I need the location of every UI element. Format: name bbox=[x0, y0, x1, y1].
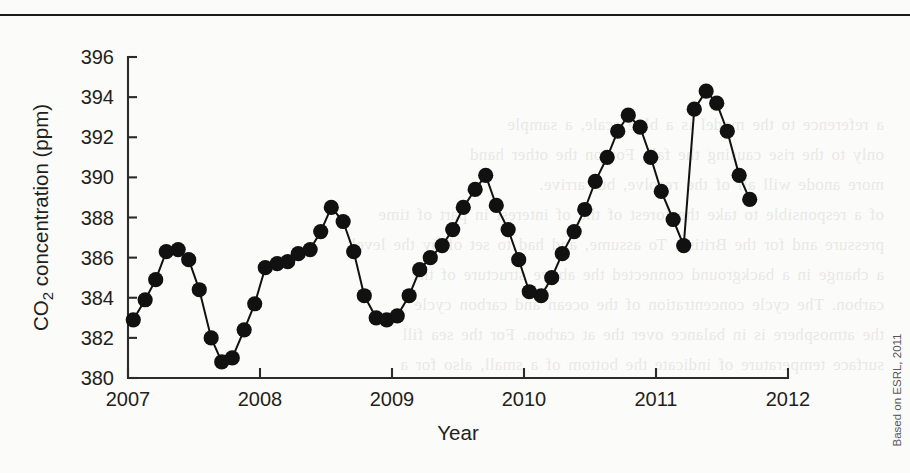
data-point bbox=[435, 238, 450, 253]
data-point bbox=[357, 288, 372, 303]
data-point bbox=[544, 270, 559, 285]
data-point bbox=[511, 252, 526, 267]
data-point bbox=[720, 124, 735, 139]
y-axis-title: CO2 concentration (ppm) bbox=[29, 104, 56, 331]
data-point bbox=[567, 224, 582, 239]
y-tick-label: 390 bbox=[81, 166, 114, 188]
data-point bbox=[148, 272, 163, 287]
data-point bbox=[676, 238, 691, 253]
data-series-markers bbox=[126, 84, 758, 370]
data-point bbox=[643, 150, 658, 165]
data-point bbox=[699, 84, 714, 99]
y-tick-label: 388 bbox=[81, 207, 114, 229]
data-point bbox=[336, 214, 351, 229]
x-tick-label: 2012 bbox=[766, 388, 811, 410]
data-point bbox=[346, 244, 361, 259]
x-tick-label: 2010 bbox=[502, 388, 547, 410]
data-point bbox=[423, 250, 438, 265]
x-tick-label: 2009 bbox=[370, 388, 415, 410]
data-point bbox=[489, 198, 504, 213]
chart-svg: 380382384386388390392394396 200720082009… bbox=[0, 14, 910, 473]
series-polyline bbox=[133, 91, 749, 362]
data-point bbox=[687, 102, 702, 117]
y-tick-labels: 380382384386388390392394396 bbox=[81, 46, 114, 389]
data-point bbox=[501, 222, 516, 237]
data-point bbox=[588, 174, 603, 189]
y-tick-label: 380 bbox=[81, 367, 114, 389]
data-point bbox=[225, 350, 240, 365]
y-tick-label: 382 bbox=[81, 327, 114, 349]
source-credit: Based on ESRL, 2011 bbox=[886, 315, 908, 465]
data-point bbox=[237, 322, 252, 337]
data-point bbox=[247, 296, 262, 311]
data-point bbox=[732, 168, 747, 183]
data-point bbox=[709, 96, 724, 111]
data-point bbox=[633, 120, 648, 135]
data-point bbox=[610, 124, 625, 139]
data-point bbox=[412, 262, 427, 277]
y-tick-label: 386 bbox=[81, 247, 114, 269]
data-point bbox=[204, 330, 219, 345]
data-point bbox=[138, 292, 153, 307]
data-point bbox=[478, 168, 493, 183]
y-tick-label: 396 bbox=[81, 46, 114, 68]
y-tick-label: 392 bbox=[81, 126, 114, 148]
y-tick-marks bbox=[128, 57, 137, 378]
data-point bbox=[445, 222, 460, 237]
x-axis-title: Year bbox=[437, 421, 479, 444]
data-point bbox=[600, 150, 615, 165]
data-point bbox=[468, 182, 483, 197]
y-tick-label: 384 bbox=[81, 287, 114, 309]
data-point bbox=[534, 288, 549, 303]
figure-page: a reference to the model is a blue scale… bbox=[0, 0, 910, 473]
x-tick-label: 2011 bbox=[634, 388, 677, 410]
source-credit-text: Based on ESRL, 2011 bbox=[891, 334, 903, 447]
data-point bbox=[126, 312, 141, 327]
x-tick-label: 2008 bbox=[238, 388, 283, 410]
data-point bbox=[402, 288, 417, 303]
x-tick-label: 2007 bbox=[106, 388, 151, 410]
data-point bbox=[390, 308, 405, 323]
data-point bbox=[577, 202, 592, 217]
y-tick-label: 394 bbox=[81, 86, 114, 108]
data-series-line bbox=[133, 91, 749, 362]
data-point bbox=[555, 246, 570, 261]
data-point bbox=[313, 224, 328, 239]
x-tick-labels: 200720082009201020112012 bbox=[106, 388, 811, 410]
data-point bbox=[192, 282, 207, 297]
data-point bbox=[654, 184, 669, 199]
data-point bbox=[303, 242, 318, 257]
x-tick-marks bbox=[128, 368, 788, 378]
co2-line-chart: 380382384386388390392394396 200720082009… bbox=[0, 14, 910, 473]
data-point bbox=[456, 200, 471, 215]
data-point bbox=[742, 192, 757, 207]
data-point bbox=[621, 108, 636, 123]
data-point bbox=[324, 200, 339, 215]
data-point bbox=[181, 252, 196, 267]
data-point bbox=[666, 212, 681, 227]
